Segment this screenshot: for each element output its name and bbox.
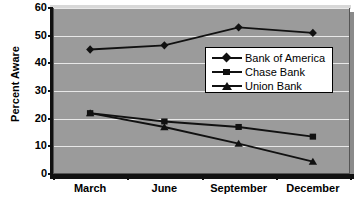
x-tick-label: September	[210, 182, 267, 194]
x-tick-mark	[53, 174, 55, 180]
line-chart: 0102030405060 MarchJuneSeptemberDecember…	[0, 0, 363, 203]
y-tick-label: 0	[1, 168, 47, 179]
x-tick-mark	[127, 174, 129, 180]
y-tick-label: 10	[1, 140, 47, 151]
y-axis-title: Percent Aware	[9, 34, 21, 134]
y-tick-label: 20	[1, 113, 47, 124]
y-tick-label-group: 0102030405060	[0, 0, 47, 203]
legend-label: Union Bank	[242, 80, 302, 92]
gridline	[54, 119, 349, 120]
legend-entry-bank-of-america: Bank of America	[206, 51, 332, 65]
x-tick-label: December	[286, 182, 339, 194]
gridline	[54, 8, 349, 9]
square-marker-icon	[212, 66, 242, 78]
legend-label: Chase Bank	[242, 66, 305, 78]
legend-label: Bank of America	[242, 52, 325, 64]
y-tick-label: 50	[1, 30, 47, 41]
x-tick-mark	[350, 174, 352, 180]
x-tick-label: March	[74, 182, 106, 194]
gridline	[54, 36, 349, 37]
x-tick-mark	[276, 174, 278, 180]
y-tick-label: 40	[1, 57, 47, 68]
gridline	[54, 146, 349, 147]
diamond-marker-icon	[212, 52, 242, 64]
y-tick-label: 30	[1, 85, 47, 96]
x-tick-label: June	[152, 182, 178, 194]
legend: Bank of America Chase Bank Union Bank	[205, 47, 333, 93]
x-tick-mark	[202, 174, 204, 180]
legend-entry-chase-bank: Chase Bank	[206, 65, 332, 79]
y-tick-label: 60	[1, 2, 47, 13]
y-axis-line	[50, 8, 53, 179]
triangle-marker-icon	[212, 80, 242, 92]
legend-entry-union-bank: Union Bank	[206, 79, 332, 93]
